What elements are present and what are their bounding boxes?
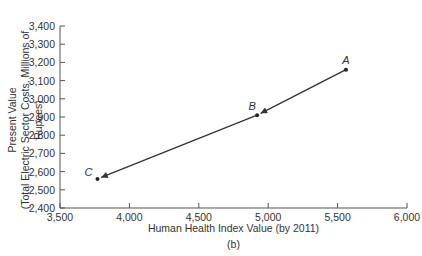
y-axis-label-line2: (Total Electric Sector Costs, Millions o…	[19, 20, 45, 220]
point-label-B: B	[248, 100, 255, 112]
plot-area: 2,4002,5002,6002,7002,8002,9003,0003,100…	[0, 0, 422, 256]
figure-sublabel: (b)	[60, 238, 407, 250]
point-C	[95, 177, 99, 181]
arrow-B-C	[101, 115, 257, 177]
point-A	[344, 68, 348, 72]
point-label-A: A	[341, 54, 349, 66]
x-axis-label: Human Health Index Value (by 2011)	[60, 222, 407, 234]
y-axis-label: Present Value (Total Electric Sector Cos…	[6, 20, 38, 220]
point-label-C: C	[85, 166, 93, 178]
point-B	[255, 113, 259, 117]
arrow-A-B	[261, 70, 346, 114]
y-axis-label-line1: Present Value	[6, 20, 19, 220]
chart: 2,4002,5002,6002,7002,8002,9003,0003,100…	[0, 0, 422, 256]
